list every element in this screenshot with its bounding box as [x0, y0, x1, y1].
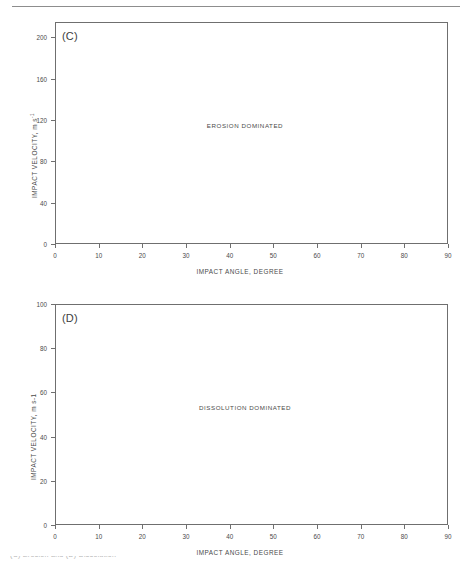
y-tick-label: 100 [15, 301, 47, 308]
panel-c: (C) EROSION DOMINATED 040801201602000102… [0, 0, 468, 290]
y-tick-mark [51, 304, 55, 305]
y-tick-mark [51, 481, 55, 482]
y-tick-mark [51, 37, 55, 38]
y-tick-label: 40 [15, 199, 47, 206]
x-tick-label: 80 [401, 252, 408, 259]
x-tick-mark [55, 525, 56, 529]
x-tick-mark [317, 525, 318, 529]
x-tick-label: 0 [53, 533, 57, 540]
panel-c-letter: (C) [62, 30, 78, 42]
panel-c-yaxis-title-exponent: -1 [30, 113, 35, 118]
y-tick-label: 200 [15, 34, 47, 41]
panel-d-annotation: DISSOLUTION DOMINATED [199, 404, 291, 411]
x-tick-mark [99, 244, 100, 248]
x-tick-label: 10 [95, 252, 102, 259]
x-tick-label: 20 [139, 533, 146, 540]
x-tick-mark [142, 525, 143, 529]
x-tick-mark [273, 525, 274, 529]
y-tick-mark [51, 392, 55, 393]
y-tick-label: 80 [15, 345, 47, 352]
panel-d-plot-box [55, 304, 448, 525]
panel-d: (D) DISSOLUTION DOMINATED 02040608010001… [0, 290, 468, 571]
panel-d-yaxis-title: IMPACT VELOCITY, m s-1 [30, 393, 37, 480]
panel-c-yaxis-title-text: IMPACT VELOCITY, m s [31, 118, 38, 198]
y-tick-label: 0 [15, 522, 47, 529]
x-tick-label: 40 [226, 252, 233, 259]
panel-d-xaxis-title: IMPACT ANGLE, DEGREE [196, 549, 283, 556]
x-tick-label: 70 [357, 252, 364, 259]
panel-c-annotation: EROSION DOMINATED [207, 122, 283, 129]
x-tick-label: 20 [139, 252, 146, 259]
x-tick-label: 10 [95, 533, 102, 540]
y-tick-label: 0 [15, 241, 47, 248]
x-tick-mark [448, 244, 449, 248]
y-tick-label: 160 [15, 75, 47, 82]
x-tick-mark [186, 244, 187, 248]
x-tick-mark [142, 244, 143, 248]
y-tick-mark [51, 348, 55, 349]
x-tick-label: 30 [182, 533, 189, 540]
x-tick-mark [404, 525, 405, 529]
y-tick-mark [51, 203, 55, 204]
x-tick-mark [186, 525, 187, 529]
x-tick-label: 70 [357, 533, 364, 540]
x-tick-mark [99, 525, 100, 529]
x-tick-label: 80 [401, 533, 408, 540]
x-tick-mark [361, 244, 362, 248]
x-tick-label: 40 [226, 533, 233, 540]
panel-c-yaxis-title: IMPACT VELOCITY, m s-1 [30, 113, 38, 198]
x-tick-mark [361, 525, 362, 529]
y-tick-mark [51, 120, 55, 121]
x-tick-label: 60 [313, 252, 320, 259]
figure-page: (C) EROSION DOMINATED 040801201602000102… [0, 0, 468, 571]
x-tick-mark [404, 244, 405, 248]
footer-caption-text: (C) Erosion and (D) Dissolution [10, 556, 116, 558]
y-tick-mark [51, 79, 55, 80]
footer-caption-clipped: (C) Erosion and (D) Dissolution [10, 556, 180, 565]
panel-d-letter: (D) [62, 312, 78, 324]
x-tick-mark [55, 244, 56, 248]
x-tick-label: 90 [444, 252, 451, 259]
x-tick-label: 50 [270, 533, 277, 540]
x-tick-label: 30 [182, 252, 189, 259]
x-tick-label: 90 [444, 533, 451, 540]
y-tick-mark [51, 161, 55, 162]
x-tick-mark [230, 525, 231, 529]
x-tick-label: 50 [270, 252, 277, 259]
x-tick-label: 60 [313, 533, 320, 540]
x-tick-mark [273, 244, 274, 248]
x-tick-mark [317, 244, 318, 248]
panel-c-plot-box [55, 22, 448, 244]
x-tick-label: 0 [53, 252, 57, 259]
x-tick-mark [230, 244, 231, 248]
panel-c-xaxis-title: IMPACT ANGLE, DEGREE [196, 268, 283, 275]
y-tick-mark [51, 437, 55, 438]
x-tick-mark [448, 525, 449, 529]
